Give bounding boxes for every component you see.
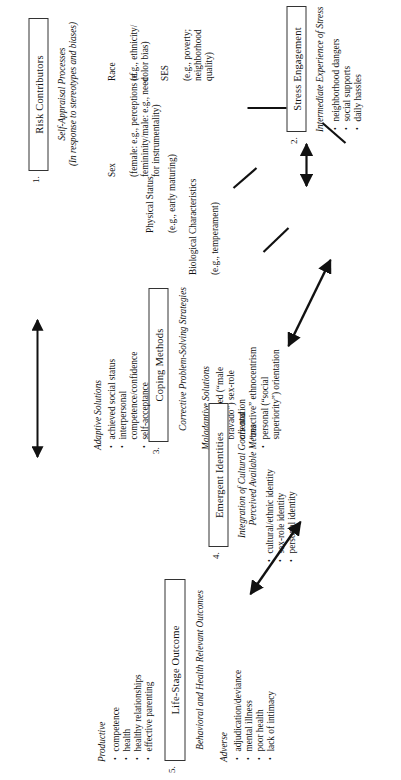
list-item: competence [110, 610, 121, 760]
figure-canvas: Risk Contributors 1. Self-Appraisal Proc… [0, 0, 401, 780]
list-item: social supports [341, 0, 352, 130]
node-life-stage-outcome[interactable]: Life-Stage Outcome [164, 579, 185, 761]
coping-adaptive-heading: Adaptive Solutions [92, 300, 103, 450]
list-item: daily hassles [352, 0, 363, 130]
list-item: effective parenting [143, 610, 154, 760]
risk-item-ses-label: SES [159, 0, 170, 81]
list-item: achieved social status [106, 338, 117, 448]
identities-caption: Integration of Cultural Goals and Percei… [236, 385, 258, 565]
node-number-3: 3. [150, 447, 160, 454]
stress-caption: Intermediate Experience of Stress [314, 0, 325, 132]
list-item: personal identity [286, 412, 297, 562]
risk-item-biological-detail: (e.g., temperament) [209, 179, 220, 275]
list-item: neighborhood dangers [330, 0, 341, 130]
coping-adaptive-bullets: achieved social status interpersonal com… [106, 338, 151, 448]
arrow-stress-to-coping [288, 260, 330, 346]
node-number-5: 5. [166, 766, 176, 773]
outcome-productive-heading: Productive [96, 632, 107, 762]
outcome-caption: Behavioral and Health Relevant Outcomes [194, 570, 205, 770]
node-number-2: 2. [288, 137, 298, 144]
list-item: mental illness [243, 610, 254, 760]
node-title: Life-Stage Outcome [169, 625, 180, 714]
node-title: Emergent Identities [213, 432, 224, 518]
risk-item-sex-label: Sex [106, 73, 117, 177]
risk-item-physical-label: Physical Status [144, 154, 155, 233]
risk-caption: Self-Appraisal Processes (In response to… [56, 0, 78, 188]
node-risk-contributors[interactable]: Risk Contributors [28, 18, 48, 171]
list-item: healthy relationships [132, 610, 143, 760]
list-item: cultural/ethnic identity [264, 412, 275, 562]
list-item: poor health [254, 610, 265, 760]
list-item: adjudication/deviance [232, 610, 243, 760]
identities-bullets: cultural/ethnic identity sex-role identi… [264, 412, 297, 562]
node-title: Stress Engagement [291, 27, 302, 111]
connector-sex-physical [233, 168, 256, 188]
node-number-4: 4. [210, 552, 220, 559]
node-title: Coping Methods [153, 328, 164, 401]
stress-bullets: neighborhood dangers social supports dai… [330, 0, 363, 130]
outcome-adverse-heading: Adverse [218, 632, 229, 762]
list-item: lack of intimacy [265, 610, 276, 760]
list-item: interpersonal competence/confidence [117, 338, 139, 448]
node-number-1: 1. [30, 176, 40, 183]
outcome-productive-bullets: competence health healthy relationships … [110, 610, 155, 760]
node-title: Risk Contributors [33, 55, 44, 133]
risk-item-ses: SES (e.g., poverty; neighborhood quality… [148, 0, 225, 81]
risk-item-physical-detail: (e.g., early maturing) [166, 154, 177, 233]
list-item: sex-role identity [275, 412, 286, 562]
node-emergent-identities[interactable]: Emergent Identities [208, 403, 228, 547]
rotated-diagram: Risk Contributors 1. Self-Appraisal Proc… [0, 0, 401, 780]
list-item: health [121, 610, 132, 760]
outcome-adverse-bullets: adjudication/deviance mental illness poo… [232, 610, 277, 760]
risk-item-biological: Biological Characteristics (e.g., temper… [176, 179, 231, 275]
risk-item-biological-label: Biological Characteristics [187, 179, 198, 275]
list-item: self-acceptance [139, 338, 150, 448]
risk-item-ses-detail: (e.g., poverty; neighborhood quality) [181, 0, 214, 81]
coping-caption: Corrective Problem-Solving Strategies [177, 264, 188, 454]
node-stress-engagement[interactable]: Stress Engagement [286, 6, 306, 132]
connector-bio-physical [263, 228, 288, 252]
